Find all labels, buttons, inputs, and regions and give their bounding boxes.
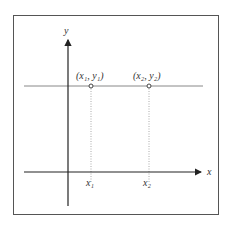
x-axis-label: x [206,166,212,177]
coordinate-diagram: x y (x₁, y₁) (x₂, y₂) x₁ x₂ [0,0,228,226]
frame-border [14,16,219,215]
y-axis-label: y [63,25,69,36]
point-2 [147,84,151,88]
point-1 [89,84,93,88]
x1-tick-label: x₁ [85,177,94,188]
x2-tick-label: x₂ [142,177,151,188]
point-1-label: (x₁, y₁) [76,70,104,82]
point-2-label: (x₂, y₂) [133,70,161,82]
